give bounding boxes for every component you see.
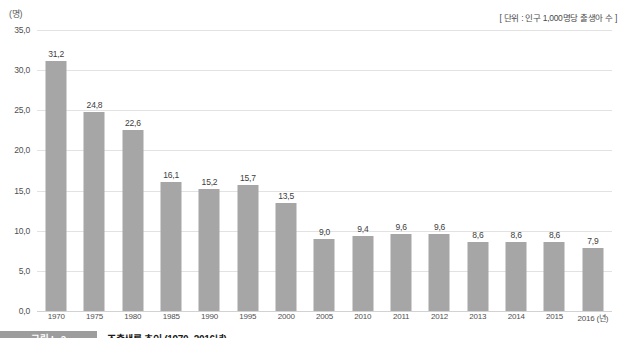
bar-slot: 8,6 bbox=[535, 30, 573, 311]
x-axis-tick: 1995 bbox=[239, 312, 256, 321]
y-axis-tick: 25,0 bbox=[0, 105, 30, 115]
y-axis-tick: 15,0 bbox=[0, 186, 30, 196]
y-axis-tick: 30,0 bbox=[0, 65, 30, 75]
x-axis-tick: 2012 bbox=[431, 312, 448, 321]
bar-slot: 9,0 bbox=[305, 30, 343, 311]
y-axis-tick: 10,0 bbox=[0, 226, 30, 236]
x-axis-tick: 1990 bbox=[201, 312, 218, 321]
bar-value-label: 8,6 bbox=[511, 230, 522, 240]
y-axis-tick: 20,0 bbox=[0, 145, 30, 155]
bar[interactable] bbox=[84, 112, 105, 311]
unit-note: [ 단위 : 인구 1,000명당 출생아 수 ] bbox=[500, 11, 617, 23]
bar[interactable] bbox=[391, 234, 412, 311]
bar-value-label: 15,7 bbox=[240, 173, 256, 183]
bar[interactable] bbox=[314, 239, 335, 311]
bar-slot: 24,8 bbox=[75, 30, 113, 311]
x-axis-tick: 2015 bbox=[546, 312, 563, 321]
bar-value-label: 7,9 bbox=[587, 236, 598, 246]
bar-value-label: 9,6 bbox=[396, 222, 407, 232]
bar[interactable] bbox=[429, 234, 450, 311]
bar[interactable] bbox=[544, 242, 565, 311]
y-axis-tick: 0,0 bbox=[0, 306, 30, 316]
x-axis-tick: 2010 bbox=[354, 312, 371, 321]
y-axis-tick: 35,0 bbox=[0, 25, 30, 35]
figure-caption-tag: 그림 I - 2 bbox=[0, 331, 97, 338]
bar[interactable] bbox=[582, 248, 603, 311]
chart-figure: (명) [ 단위 : 인구 1,000명당 출생아 수 ] 0,05,010,0… bbox=[0, 0, 626, 338]
bar-value-label: 16,1 bbox=[163, 170, 179, 180]
bar-series: 31,224,822,616,115,215,713,59,09,49,69,6… bbox=[37, 30, 612, 311]
figure-caption-title: 조출생률 추이 (1970~2016년) bbox=[107, 331, 227, 338]
bar-value-label: 9,6 bbox=[434, 222, 445, 232]
bar[interactable] bbox=[506, 242, 527, 311]
bar-slot: 8,6 bbox=[459, 30, 497, 311]
x-axis-tick: 2013 bbox=[469, 312, 486, 321]
x-axis-tick: 2005 bbox=[316, 312, 333, 321]
bar[interactable] bbox=[467, 242, 488, 311]
bar-slot: 9,6 bbox=[382, 30, 420, 311]
bar-slot: 15,7 bbox=[229, 30, 267, 311]
bar-value-label: 31,2 bbox=[48, 49, 64, 59]
bar[interactable] bbox=[237, 185, 258, 311]
bar-slot: 16,1 bbox=[152, 30, 190, 311]
bar-slot: 9,6 bbox=[420, 30, 458, 311]
bar-slot: 13,5 bbox=[267, 30, 305, 311]
bar[interactable] bbox=[352, 236, 373, 311]
bar-slot: 9,4 bbox=[344, 30, 382, 311]
bar-slot: 22,6 bbox=[114, 30, 152, 311]
figure-caption: 그림 I - 2 조출생률 추이 (1970~2016년) bbox=[0, 329, 626, 338]
x-axis-tick: 2011 bbox=[393, 312, 409, 321]
bar-slot: 31,2 bbox=[37, 30, 75, 311]
bar-slot: 8,6 bbox=[497, 30, 535, 311]
bar-value-label: 13,5 bbox=[278, 191, 294, 201]
bar[interactable] bbox=[122, 130, 143, 311]
x-axis-tick: 1980 bbox=[124, 312, 141, 321]
bar-slot: 7,9 bbox=[574, 30, 612, 311]
bar-value-label: 15,2 bbox=[202, 177, 218, 187]
x-axis-tick: 1985 bbox=[163, 312, 180, 321]
x-axis-tick: 2014 bbox=[508, 312, 525, 321]
bar[interactable] bbox=[276, 203, 297, 311]
bar-value-label: 22,6 bbox=[125, 118, 141, 128]
bar[interactable] bbox=[199, 189, 220, 311]
bar[interactable] bbox=[46, 61, 67, 311]
bar-value-label: 9,0 bbox=[319, 227, 330, 237]
bar[interactable] bbox=[161, 182, 182, 311]
bar-value-label: 8,6 bbox=[549, 230, 560, 240]
y-axis-tick-labels: 0,05,010,015,020,025,030,035,0 bbox=[0, 30, 34, 311]
bar-value-label: 24,8 bbox=[87, 100, 103, 110]
bar-value-label: 9,4 bbox=[357, 224, 368, 234]
y-axis-tick: 5,0 bbox=[0, 266, 30, 276]
x-axis-tick-labels: 1970197519801985199019952000200520102011… bbox=[37, 312, 612, 326]
bar-slot: 15,2 bbox=[190, 30, 228, 311]
x-axis-tick: 2016 (년) bbox=[577, 312, 608, 323]
x-axis-tick: 1970 bbox=[48, 312, 65, 321]
x-axis-tick: 2000 bbox=[278, 312, 295, 321]
bar-value-label: 8,6 bbox=[472, 230, 483, 240]
y-axis-unit-label: (명) bbox=[9, 7, 22, 20]
x-axis-tick: 1975 bbox=[86, 312, 103, 321]
